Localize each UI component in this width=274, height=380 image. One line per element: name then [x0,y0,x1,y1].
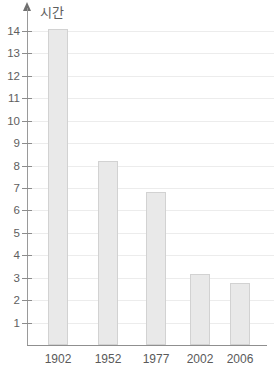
y-axis-tick-label: 8 [0,160,20,172]
y-axis-tick [22,300,32,301]
bar [98,161,118,345]
y-axis-tick-label: 12 [0,70,20,82]
bar-chart: 시간 1234567891011121314 19021952197720022… [0,0,274,380]
y-axis-line [27,8,28,346]
y-axis-tick [22,210,32,211]
y-axis-tick-label: 3 [0,272,20,284]
bar [190,274,210,345]
y-axis-tick [22,278,32,279]
y-axis-tick [22,188,32,189]
x-axis-tick-label: 2006 [227,352,254,366]
y-axis-tick-label: 5 [0,227,20,239]
y-axis-tick-label: 13 [0,47,20,59]
bar [48,29,68,345]
y-axis-tick-label: 9 [0,137,20,149]
y-axis-tick-label: 14 [0,25,20,37]
x-axis-tick-label: 2002 [187,352,214,366]
y-axis-tick-label: 4 [0,249,20,261]
y-axis-title: 시간 [40,2,64,21]
y-axis-tick [22,143,32,144]
bar [230,283,250,345]
y-axis-tick [22,76,32,77]
y-axis-tick [22,31,32,32]
y-axis-tick-label: 10 [0,115,20,127]
x-axis-tick-label: 1902 [45,352,72,366]
y-axis-tick [22,323,32,324]
bar [146,192,166,345]
x-axis-tick-label: 1952 [95,352,122,366]
y-axis-tick-label: 7 [0,182,20,194]
y-axis-tick-label: 2 [0,294,20,306]
x-axis-tick-label: 1977 [143,352,170,366]
y-axis-tick-label: 6 [0,204,20,216]
x-axis-line [27,345,267,346]
y-axis-tick [22,255,32,256]
y-axis-tick [22,53,32,54]
y-axis-tick [22,121,32,122]
y-axis-tick [22,98,32,99]
y-axis-tick [22,233,32,234]
y-axis-tick [22,166,32,167]
y-axis-tick-label: 11 [0,92,20,104]
y-axis-tick-label: 1 [0,317,20,329]
